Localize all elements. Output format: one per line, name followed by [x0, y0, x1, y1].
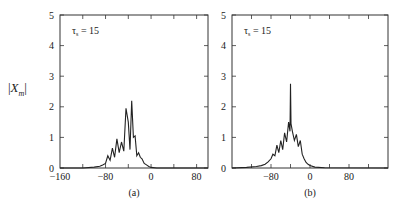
- x-tick-label: 0: [308, 171, 313, 182]
- plot-frame: [232, 15, 388, 168]
- x-tick-label: 80: [344, 171, 354, 182]
- x-tick-label: 80: [192, 171, 202, 182]
- spectrum-line: [232, 84, 388, 168]
- figure-canvas: −160−80080012345τs = 15(a)−80080012345τs…: [0, 0, 396, 208]
- y-tick-label: 1: [49, 132, 54, 143]
- y-tick-label: 4: [221, 40, 226, 51]
- y-tick-label: 1: [221, 132, 226, 143]
- y-tick-label: 2: [49, 101, 54, 112]
- spectrum-line: [60, 101, 208, 168]
- y-tick-label: 0: [221, 163, 226, 174]
- tau-annotation: τs = 15: [244, 25, 271, 37]
- y-tick-label: 0: [49, 163, 54, 174]
- chart-panel-b: −80080012345τs = 15(b): [221, 10, 388, 200]
- x-tick-label: −80: [263, 171, 279, 182]
- tau-annotation: τs = 15: [72, 25, 99, 37]
- y-tick-label: 4: [49, 40, 54, 51]
- panel-caption: (b): [304, 187, 316, 199]
- plot-frame: [60, 15, 208, 168]
- y-tick-label: 5: [221, 10, 226, 21]
- panel-caption: (a): [128, 187, 139, 199]
- y-tick-label: 3: [221, 71, 226, 82]
- x-tick-label: 0: [149, 171, 154, 182]
- x-tick-label: −80: [98, 171, 114, 182]
- y-tick-label: 2: [221, 101, 226, 112]
- chart-panel-a: −160−80080012345τs = 15(a): [49, 10, 208, 200]
- y-tick-label: 5: [49, 10, 54, 21]
- y-tick-label: 3: [49, 71, 54, 82]
